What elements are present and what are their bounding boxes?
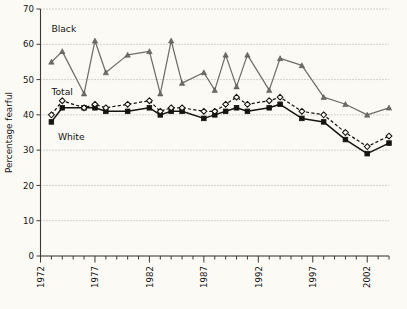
y-tick-label-60: 60 [23,39,34,49]
marker-black-1994 [277,56,282,61]
marker-black-1985 [179,80,184,85]
marker-total-2002 [364,144,370,150]
marker-black-1989 [223,52,228,57]
marker-white-1990 [234,106,239,111]
y-tick-label-10: 10 [23,216,34,226]
marker-total-1989 [223,101,229,107]
series-line-black [51,41,389,115]
marker-black-1976 [81,91,86,96]
marker-total-1994 [277,94,283,100]
series-white [49,102,391,156]
marker-black-1984 [168,38,173,43]
series-black [49,38,392,117]
marker-black-1987 [201,70,206,75]
series-line-total [51,97,389,146]
y-axis-ticks: 010203040506070 [23,4,40,261]
x-tick-label-1997: 1997 [308,266,318,288]
marker-black-1983 [158,91,163,96]
marker-white-1982 [147,106,152,111]
y-tick-label-30: 30 [23,145,34,155]
marker-total-1998 [321,112,327,118]
marker-white-1974 [60,106,65,111]
marker-black-1977 [92,38,97,43]
y-axis-title: Percentage fearful [4,92,14,173]
marker-black-1974 [60,49,65,54]
marker-white-1980 [125,109,130,114]
marker-total-1996 [299,108,305,114]
series-label-white: White [58,131,85,142]
marker-black-2004 [386,105,391,110]
marker-white-1991 [245,109,250,114]
marker-total-1993 [266,98,272,104]
series-annotations: BlackTotalWhite [50,23,85,142]
marker-white-1996 [300,116,305,121]
chart-container: 0102030405060701972197719821987199219972… [0,0,407,309]
x-axis-ticks [41,256,390,263]
marker-white-1994 [278,102,283,107]
marker-black-1990 [234,84,239,89]
series-label-black: Black [51,23,77,34]
marker-white-2000 [343,137,348,142]
marker-white-1993 [267,106,272,111]
x-tick-label-2002: 2002 [362,266,372,288]
marker-white-2004 [387,141,392,146]
x-tick-label-1972: 1972 [36,266,46,288]
x-tick-label-1977: 1977 [90,266,100,288]
marker-total-1980 [125,101,131,107]
marker-white-1989 [223,109,228,114]
marker-total-1987 [201,108,207,114]
x-axis-labels: 1972197719821987199219972002 [36,266,373,288]
x-tick-label-1987: 1987 [199,266,209,288]
y-tick-label-0: 0 [29,251,34,261]
marker-white-2002 [365,151,370,156]
series-line-white [51,104,389,153]
y-tick-label-70: 70 [23,4,34,14]
marker-total-1974 [59,98,65,104]
y-tick-label-20: 20 [23,181,34,191]
x-tick-label-1992: 1992 [254,266,264,288]
series-label-total: Total [50,86,72,97]
marker-white-1998 [321,120,326,125]
marker-white-1987 [202,116,207,121]
y-tick-label-50: 50 [23,75,34,85]
marker-white-1973 [49,120,54,125]
x-tick-label-1982: 1982 [145,266,155,288]
marker-total-2004 [386,133,392,139]
marker-total-1991 [245,101,251,107]
marker-black-1991 [245,52,250,57]
fear-of-crime-line-chart: 0102030405060701972197719821987199219972… [0,0,407,309]
y-tick-label-40: 40 [23,110,34,120]
